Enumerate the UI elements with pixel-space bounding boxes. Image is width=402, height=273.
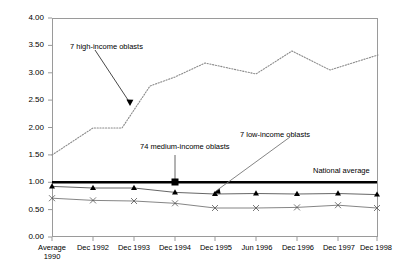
annotation-medium-income-label: 74 medium-income oblasts <box>140 142 230 151</box>
chart-container: 4.00 3.50 3.00 2.50 2.00 1.50 1.00 0.50 … <box>0 0 402 273</box>
series-medium-income-markers <box>49 183 380 196</box>
series-low-income-line <box>52 198 377 208</box>
annotation-leader-high-income <box>95 50 133 106</box>
y-axis-ticks <box>48 18 52 237</box>
x-axis-ticks <box>52 237 377 241</box>
series-low-income-markers <box>49 195 380 211</box>
annotation-low-income-label: 7 low-income oblasts <box>240 130 310 139</box>
annotation-high-income-label: 7 high-income oblasts <box>70 42 143 51</box>
chart-svg <box>0 0 402 273</box>
annotation-national-average-label: National average <box>313 166 370 175</box>
annotation-leader-medium-income <box>172 155 179 186</box>
series-high-income-line <box>52 51 378 155</box>
